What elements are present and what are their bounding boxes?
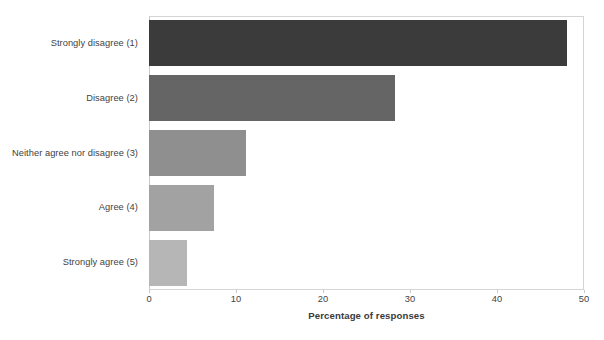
- bar: [149, 240, 187, 286]
- x-tick-mark: [410, 290, 411, 293]
- x-tick-label: 10: [231, 294, 241, 305]
- bar-chart: Strongly disagree (1)Disagree (2)Neither…: [0, 0, 604, 340]
- category-label: Strongly agree (5): [0, 257, 138, 268]
- bar: [149, 185, 214, 231]
- x-tick-label: 0: [146, 294, 151, 305]
- bars-layer: [149, 16, 584, 290]
- bar: [149, 75, 395, 121]
- x-tick-label: 30: [405, 294, 415, 305]
- bar: [149, 130, 246, 176]
- category-label: Neither agree nor disagree (3): [0, 148, 138, 159]
- x-tick-mark: [149, 290, 150, 293]
- x-tick-label: 40: [492, 294, 502, 305]
- x-tick-mark: [323, 290, 324, 293]
- x-tick-mark: [236, 290, 237, 293]
- x-tick-mark: [497, 290, 498, 293]
- x-tick-label: 50: [579, 294, 589, 305]
- category-label: Agree (4): [0, 202, 138, 213]
- x-tick-label: 20: [318, 294, 328, 305]
- x-tick-mark: [584, 290, 585, 293]
- category-label: Strongly disagree (1): [0, 38, 138, 49]
- category-axis-labels: Strongly disagree (1)Disagree (2)Neither…: [0, 16, 144, 290]
- x-axis-title: Percentage of responses: [149, 310, 584, 321]
- bar: [149, 20, 567, 66]
- category-label: Disagree (2): [0, 93, 138, 104]
